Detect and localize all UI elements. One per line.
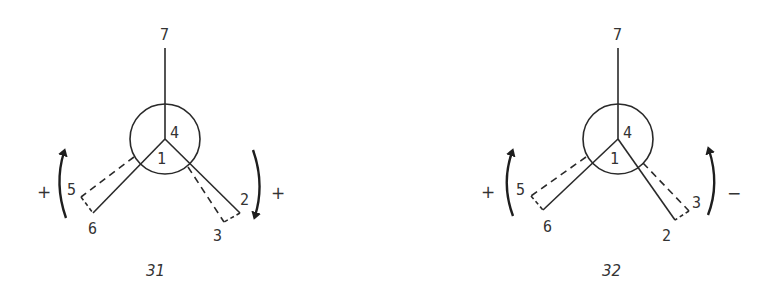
figure-caption-31: 31 bbox=[146, 262, 165, 280]
bond-5-6-closure bbox=[81, 197, 93, 213]
atom-label-2: 2 bbox=[240, 191, 249, 209]
atom-label-4: 4 bbox=[623, 124, 632, 142]
rotation-arrow-right bbox=[253, 150, 260, 216]
rotation-arrow-right bbox=[708, 150, 714, 215]
atom-label-2: 2 bbox=[662, 227, 671, 245]
bond-2-3-closure bbox=[675, 211, 689, 220]
bond-dashed-3 bbox=[188, 167, 224, 222]
atom-label-5: 5 bbox=[67, 181, 76, 199]
atom-label-7: 7 bbox=[613, 26, 622, 44]
atom-label-6: 6 bbox=[88, 220, 97, 238]
sign-left: + bbox=[37, 182, 51, 202]
atom-label-4: 4 bbox=[170, 124, 179, 142]
atom-label-3: 3 bbox=[692, 194, 701, 212]
bond-1-2 bbox=[165, 139, 240, 213]
sign-left: + bbox=[481, 182, 495, 202]
rotation-arrow-left bbox=[59, 152, 66, 218]
bond-dashed-3 bbox=[643, 163, 689, 211]
newman-projection-32: 7 4 1 5 6 3 2 + − 32 bbox=[481, 26, 741, 280]
bond-1-6 bbox=[93, 139, 165, 213]
bond-1-6 bbox=[543, 139, 618, 210]
bond-2-3-closure bbox=[224, 213, 240, 222]
newman-projection-31: 7 4 1 5 6 2 3 + + 31 bbox=[37, 26, 285, 280]
sign-right: + bbox=[271, 183, 285, 203]
atom-label-3: 3 bbox=[213, 227, 222, 245]
bond-dashed-5 bbox=[81, 157, 134, 197]
sign-right: − bbox=[727, 183, 741, 203]
bond-5-6-closure bbox=[531, 196, 543, 210]
atom-label-1: 1 bbox=[610, 150, 619, 168]
atom-label-6: 6 bbox=[543, 218, 552, 236]
atom-label-5: 5 bbox=[516, 181, 525, 199]
diagram-canvas: 7 4 1 5 6 2 3 + + 31 7 4 1 5 6 bbox=[0, 0, 782, 300]
rotation-arrow-left bbox=[507, 152, 513, 216]
bond-1-2 bbox=[618, 139, 675, 220]
figure-caption-32: 32 bbox=[602, 262, 621, 280]
atom-label-7: 7 bbox=[160, 26, 169, 44]
atom-label-1: 1 bbox=[157, 150, 166, 168]
